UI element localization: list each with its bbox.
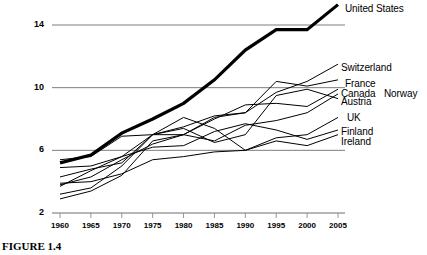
series-label-austria: Austria [341, 96, 371, 107]
x-axis-label-1965: 1965 [74, 221, 108, 230]
series-label-switzerland: Switzerland [341, 62, 392, 73]
series-lines-group [60, 5, 338, 199]
x-axis-label-1970: 1970 [105, 221, 139, 230]
x-axis-label-2005: 2005 [321, 221, 355, 230]
x-axis-ticks-group [60, 213, 338, 218]
x-axis-label-1975: 1975 [136, 221, 170, 230]
x-axis-label-1985: 1985 [197, 221, 231, 230]
series-label-ireland: Ireland [341, 136, 371, 147]
series-line-france [60, 80, 338, 185]
series-line-united-states [60, 5, 338, 163]
y-axis-label-10: 10 [22, 82, 44, 92]
figure-container: 261014 196019651970197519801985199019952… [0, 0, 427, 255]
y-axis-label-14: 14 [22, 19, 44, 29]
x-axis-label-1995: 1995 [259, 221, 293, 230]
series-label-uk: UK [347, 112, 361, 123]
x-axis-label-1960: 1960 [43, 221, 77, 230]
series-label-united-states: United States [345, 3, 404, 14]
x-axis-label-1980: 1980 [167, 221, 201, 230]
series-line-ireland [60, 117, 338, 194]
series-line-austria [60, 89, 338, 177]
series-line-canada [60, 89, 338, 159]
x-axis-label-1990: 1990 [228, 221, 262, 230]
figure-caption: FIGURE 1.4 [2, 240, 61, 252]
series-line-finland [60, 124, 338, 187]
y-axis-label-2: 2 [22, 207, 44, 217]
series-label-norway: Norway [384, 88, 417, 99]
y-axis-label-6: 6 [22, 144, 44, 154]
x-axis-label-2000: 2000 [290, 221, 324, 230]
